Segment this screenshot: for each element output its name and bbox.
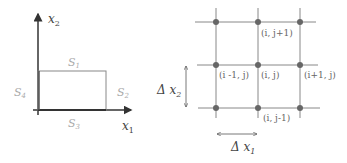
node-label-bottom: (i, j-1) [263, 113, 290, 123]
dx1-label: Δ x1 [230, 140, 255, 156]
y-axis-label: x2 [48, 12, 60, 28]
domain-diagram: x2 x1 S1 S2 S3 S4 [14, 12, 134, 135]
node-label-top: (i, j+1) [261, 28, 293, 38]
grid-stencil: (i, j+1) (i -1, j) (i, j) (i+1, j) (i, j… [156, 8, 336, 156]
side-label-s4: S4 [14, 86, 26, 100]
side-label-s2: S2 [117, 86, 130, 100]
node-label-left: (i -1, j) [219, 70, 249, 80]
dx2-label: Δ x2 [156, 83, 181, 99]
node-label-right: (i+1, j) [304, 70, 336, 80]
x-axis-label: x1 [122, 119, 134, 135]
side-label-s1: S1 [68, 56, 80, 70]
side-label-s3: S3 [68, 117, 81, 131]
node-label-center: (i, j) [261, 70, 279, 80]
diagram-canvas: x2 x1 S1 S2 S3 S4 (i, j+1) (i -1, j) (i,… [0, 0, 347, 163]
domain-rectangle [38, 71, 106, 110]
